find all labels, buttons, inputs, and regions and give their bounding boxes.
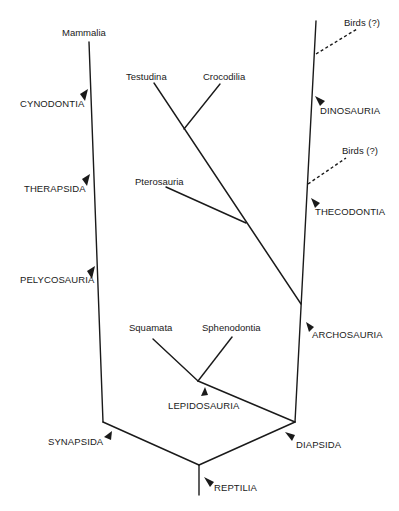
archosaur-lineage xyxy=(295,21,316,422)
cladogram-lines xyxy=(0,0,399,511)
cladogram-canvas: Mammalia Testudina Crocodilia Birds (?) … xyxy=(0,0,399,511)
taxon-birds-upper: Birds (?) xyxy=(344,18,380,28)
lepidosauria-arrow-icon xyxy=(201,387,208,396)
clade-pelycosauria: PELYCOSAURIA xyxy=(20,275,94,285)
synapsida-branch xyxy=(103,422,199,465)
clade-dinosauria: DINOSAURIA xyxy=(320,106,380,116)
clade-lepidosauria: LEPIDOSAURIA xyxy=(168,401,239,411)
clade-archosauria: ARCHOSAURIA xyxy=(312,330,383,340)
reptilia-arrow-icon xyxy=(204,477,214,487)
diapsida-arrow-icon xyxy=(285,432,295,441)
diapsida-branch xyxy=(199,422,295,465)
clade-therapsida: THERAPSIDA xyxy=(24,184,86,194)
taxon-sphenodontia: Sphenodontia xyxy=(202,323,261,333)
synapsida-arrow-icon xyxy=(104,431,112,440)
clade-reptilia: REPTILIA xyxy=(214,483,257,493)
taxon-testudina: Testudina xyxy=(126,72,167,82)
synapsid-lineage xyxy=(89,42,103,422)
taxon-crocodilia: Crocodilia xyxy=(203,72,245,82)
taxon-mammalia: Mammalia xyxy=(62,28,106,38)
clade-thecodontia: THECODONTIA xyxy=(315,207,385,217)
clade-synapsida: SYNAPSIDA xyxy=(48,437,103,447)
testudina-branch xyxy=(154,83,301,304)
birds-upper-dashed xyxy=(316,29,357,54)
taxon-birds-lower: Birds (?) xyxy=(342,146,378,156)
clade-diapsida: DIAPSIDA xyxy=(296,440,341,450)
sphenodontia-branch xyxy=(198,337,232,381)
birds-lower-dashed xyxy=(308,158,346,184)
taxon-pterosauria: Pterosauria xyxy=(135,177,184,187)
crocodilia-branch xyxy=(184,84,220,129)
taxon-squamata: Squamata xyxy=(129,323,172,333)
clade-cynodontia: CYNODONTIA xyxy=(20,99,84,109)
squamata-branch xyxy=(153,339,198,381)
pterosauria-branch xyxy=(166,187,246,223)
